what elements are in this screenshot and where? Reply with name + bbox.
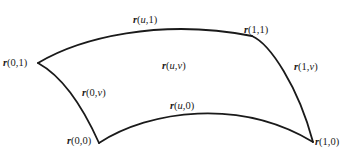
label-args: (0,1) — [7, 57, 27, 68]
label-args-pre: (1, — [298, 61, 309, 72]
label-args-post: ) — [182, 60, 186, 71]
label-args-post: ) — [314, 61, 318, 72]
edge-u0-curve — [99, 113, 313, 143]
label-r-0-1: r(0,1) — [3, 58, 27, 69]
label-r-0-v: r(0,v) — [82, 88, 106, 99]
label-args-post: ) — [102, 87, 106, 98]
label-r-u-v: r(u,v) — [162, 61, 186, 72]
label-args-pre: (0, — [86, 87, 97, 98]
label-args: (0,0) — [71, 135, 91, 146]
label-r-u-0: r(u,0) — [170, 101, 194, 112]
label-r-u-1: r(u,1) — [133, 15, 157, 26]
label-r-0-0: r(0,0) — [67, 136, 91, 147]
surface-patch-diagram — [0, 0, 350, 159]
label-r-1-1: r(1,1) — [244, 25, 268, 36]
label-r-1-v: r(1,v) — [294, 62, 318, 73]
label-args-post: ,1) — [146, 14, 157, 25]
edge-0v-curve — [38, 63, 99, 143]
label-args: (1,1) — [248, 24, 268, 35]
edge-u1-curve — [38, 29, 252, 63]
label-args-post: ,0) — [183, 100, 194, 111]
label-r-1-0: r(1,0) — [315, 137, 339, 148]
label-args: (1,0) — [319, 136, 339, 147]
